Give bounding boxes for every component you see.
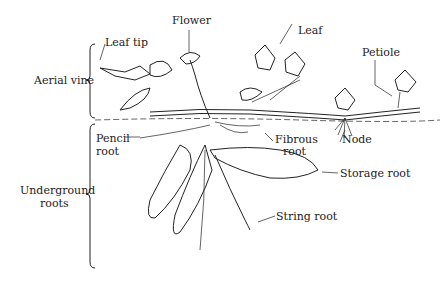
string-root-leader — [258, 216, 275, 222]
storage-root-left — [148, 145, 191, 218]
sweet-potato-diagram: Flower Leaf tip Leaf Petiole Aerial vine… — [0, 0, 442, 285]
soil-line — [95, 119, 440, 122]
leaf-leader — [280, 24, 292, 44]
label-flower: Flower — [172, 14, 212, 27]
label-pencil-root-2: root — [96, 145, 120, 158]
leaf-stems — [252, 76, 400, 108]
fibrous-root-leader — [265, 133, 273, 141]
label-aerial-vine: Aerial vine — [33, 74, 94, 87]
label-fibrous-root-2: root — [283, 145, 307, 158]
diagram-illustration: Flower Leaf tip Leaf Petiole Aerial vine… — [0, 0, 442, 285]
petiole-leader — [375, 60, 392, 96]
label-storage-root: Storage root — [340, 167, 411, 180]
leaf-shape-1 — [255, 45, 275, 70]
leaf-shape-left — [120, 88, 150, 110]
leaf-shape-node — [335, 88, 355, 110]
vine-stem — [150, 108, 420, 116]
label-pencil-root-1: Pencil — [96, 132, 130, 145]
leaf-tip-shape — [100, 66, 150, 80]
label-node: Node — [342, 133, 372, 146]
leaf-shape-2 — [285, 52, 305, 76]
flower-icon — [180, 52, 200, 64]
label-underground-1: Underground — [20, 184, 95, 197]
label-string-root: String root — [276, 210, 338, 223]
storage-root-leader — [322, 172, 338, 173]
label-petiole: Petiole — [362, 46, 400, 59]
leaf-shape-3 — [240, 88, 262, 100]
label-underground-2: roots — [40, 197, 69, 210]
leaf-shape-petiole — [395, 70, 416, 92]
string-root-2 — [200, 150, 205, 250]
label-leaf-tip: Leaf tip — [105, 36, 148, 49]
label-leaf: Leaf — [298, 24, 323, 37]
fibrous-root — [215, 122, 260, 133]
leaf-shape-upper — [150, 61, 172, 77]
pencil-root — [140, 125, 210, 138]
